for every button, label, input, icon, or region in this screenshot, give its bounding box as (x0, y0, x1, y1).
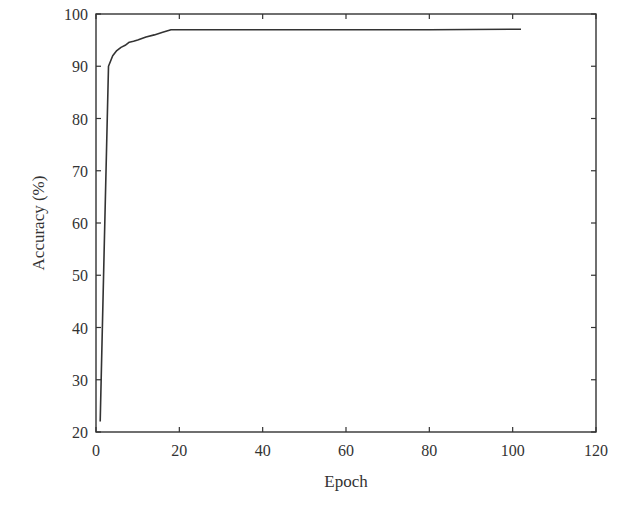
plot-frame (96, 14, 596, 432)
x-tick-label: 20 (171, 442, 187, 459)
y-tick-label: 40 (72, 320, 88, 337)
y-tick-label: 100 (64, 6, 88, 23)
y-tick-label: 20 (72, 424, 88, 441)
y-tick-label: 60 (72, 215, 88, 232)
y-tick-label: 90 (72, 58, 88, 75)
accuracy-chart: 0204060801001202030405060708090100 Epoch… (0, 0, 630, 509)
y-tick-label: 80 (72, 111, 88, 128)
y-tick-label: 50 (72, 267, 88, 284)
y-tick-label: 70 (72, 163, 88, 180)
x-axis-label: Epoch (324, 472, 368, 491)
x-tick-label: 40 (255, 442, 271, 459)
plot-axes (96, 14, 596, 432)
x-tick-label: 80 (421, 442, 437, 459)
axis-ticks: 0204060801001202030405060708090100 (64, 6, 608, 459)
x-tick-label: 60 (338, 442, 354, 459)
y-tick-label: 30 (72, 372, 88, 389)
accuracy-line (100, 29, 521, 421)
x-tick-label: 120 (584, 442, 608, 459)
x-tick-label: 0 (92, 442, 100, 459)
y-axis-label: Accuracy (%) (29, 176, 48, 271)
x-tick-label: 100 (501, 442, 525, 459)
